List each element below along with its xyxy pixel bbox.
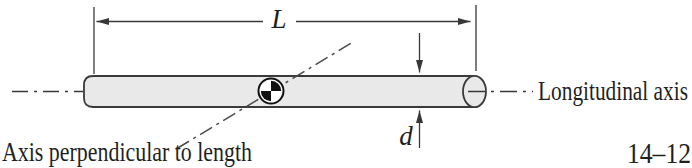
length-label: L xyxy=(270,4,286,34)
figure-number: 14–12 xyxy=(627,137,691,168)
center-of-mass-icon xyxy=(259,79,284,104)
longitudinal-axis-label: Longitudinal axis xyxy=(538,76,688,106)
diameter-label: d xyxy=(399,121,413,151)
rod-axis-diagram: L Longitudinal axis d Axis perpendicular… xyxy=(0,0,692,168)
perpendicular-axis-label: Axis perpendicular to length xyxy=(2,137,252,167)
figure-rod-moment-of-inertia: L Longitudinal axis d Axis perpendicular… xyxy=(0,0,692,168)
